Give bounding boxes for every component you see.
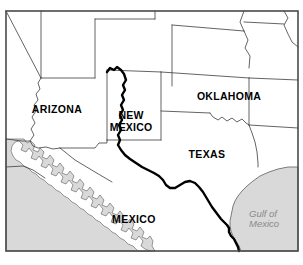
label-new-mexico-line1: NEW (118, 109, 143, 121)
label-oklahoma: OKLAHOMA (197, 90, 261, 102)
label-texas: TEXAS (188, 148, 225, 160)
map-svg: ARIZONA NEW MEXICO OKLAHOMA TEXAS MEXICO… (0, 0, 303, 265)
label-gulf-of-mexico-line2: Mexico (249, 218, 279, 229)
label-arizona: ARIZONA (32, 103, 83, 115)
map-container: ARIZONA NEW MEXICO OKLAHOMA TEXAS MEXICO… (0, 0, 303, 265)
label-mexico: MEXICO (112, 213, 156, 225)
label-new-mexico-line2: MEXICO (110, 121, 153, 133)
